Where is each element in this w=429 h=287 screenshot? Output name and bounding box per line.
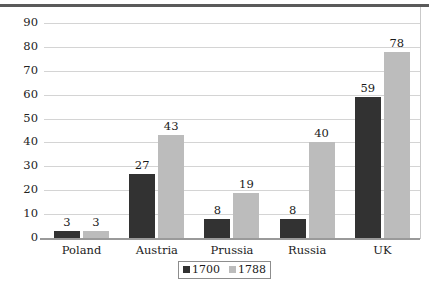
bar[interactable] bbox=[83, 231, 109, 238]
right-border-rule bbox=[420, 7, 421, 239]
y-axis: 0102030405060708090 bbox=[0, 23, 38, 238]
bar[interactable] bbox=[129, 174, 155, 239]
y-axis-tick-label: 60 bbox=[4, 89, 38, 100]
bar-value-label: 59 bbox=[348, 83, 388, 94]
bar-group: 5978 bbox=[345, 23, 420, 238]
bar-value-label: 43 bbox=[151, 121, 191, 132]
y-axis-tick-label: 0 bbox=[4, 232, 38, 243]
legend-label: 1788 bbox=[238, 264, 266, 275]
bar-group: 840 bbox=[270, 23, 345, 238]
y-axis-tick-label: 10 bbox=[4, 208, 38, 219]
bar-value-label: 8 bbox=[273, 205, 313, 216]
bar-value-label: 40 bbox=[302, 128, 342, 139]
legend-swatch-icon bbox=[183, 266, 190, 273]
x-axis-tick-label: Prussia bbox=[195, 243, 270, 257]
chart-legend: 17001788 bbox=[178, 261, 271, 279]
x-axis-tick-labels: PolandAustriaPrussiaRussiaUK bbox=[44, 243, 420, 261]
top-border-rule bbox=[0, 4, 429, 7]
y-axis-tick-label: 30 bbox=[4, 160, 38, 171]
y-axis-tick-label: 70 bbox=[4, 65, 38, 76]
x-axis-line bbox=[40, 238, 420, 240]
bar-group: 33 bbox=[44, 23, 119, 238]
x-axis-tick-label: Austria bbox=[119, 243, 194, 257]
y-axis-tick-label: 80 bbox=[4, 41, 38, 52]
x-axis-tick-label: Poland bbox=[44, 243, 119, 257]
bar-group: 819 bbox=[194, 23, 269, 238]
bar[interactable] bbox=[309, 142, 335, 238]
bar-group: 2743 bbox=[119, 23, 194, 238]
bar-value-label: 78 bbox=[377, 38, 417, 49]
legend-item[interactable]: 1788 bbox=[229, 264, 266, 275]
y-axis-tick-label: 90 bbox=[4, 17, 38, 28]
y-axis-tick-label: 40 bbox=[4, 136, 38, 147]
bar[interactable] bbox=[384, 52, 410, 238]
x-axis-tick-label: Russia bbox=[270, 243, 345, 257]
bar-value-label: 27 bbox=[122, 160, 162, 171]
x-axis-tick-label: UK bbox=[345, 243, 420, 257]
plot-area: 3327438198405978 bbox=[44, 23, 420, 238]
y-axis-tick-label: 50 bbox=[4, 113, 38, 124]
bar[interactable] bbox=[280, 219, 306, 238]
bar[interactable] bbox=[54, 231, 80, 238]
y-axis-tick-label: 20 bbox=[4, 184, 38, 195]
legend-label: 1700 bbox=[192, 264, 220, 275]
legend-swatch-icon bbox=[229, 266, 236, 273]
chart-figure: 0102030405060708090 3327438198405978 Pol… bbox=[0, 0, 429, 287]
legend-item[interactable]: 1700 bbox=[183, 264, 220, 275]
bar[interactable] bbox=[204, 219, 230, 238]
bar-value-label: 8 bbox=[197, 205, 237, 216]
bar[interactable] bbox=[355, 97, 381, 238]
bar-value-label: 3 bbox=[76, 217, 116, 228]
bar[interactable] bbox=[158, 135, 184, 238]
bar[interactable] bbox=[233, 193, 259, 238]
bar-value-label: 19 bbox=[226, 179, 266, 190]
